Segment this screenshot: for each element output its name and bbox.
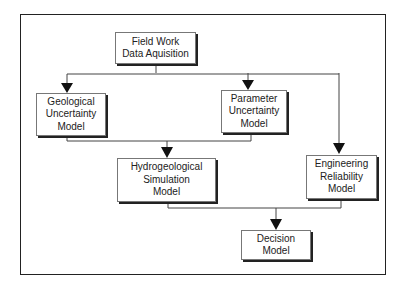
node-label-line: Data Aquisition xyxy=(122,48,189,61)
node-label-line: Model xyxy=(240,118,267,131)
node-hydrogeological: Hydrogeological Simulation Model xyxy=(117,158,216,202)
node-label-line: Model xyxy=(328,183,355,196)
node-label-line: Model xyxy=(57,121,84,134)
node-label-line: Model xyxy=(153,186,180,199)
node-decision: Decision Model xyxy=(241,230,311,260)
arrowhead-parameter xyxy=(242,80,254,90)
arrowhead-geological xyxy=(61,83,73,93)
node-label-line: Model xyxy=(262,245,289,258)
connector-field-work-split xyxy=(67,64,339,143)
node-label-line: Simulation xyxy=(143,174,190,187)
node-label-line: Geological xyxy=(47,96,94,109)
node-label-line: Parameter xyxy=(231,93,278,106)
node-label-line: Decision xyxy=(257,233,295,246)
node-engineering: Engineering Reliability Model xyxy=(306,155,377,199)
node-label-line: Hydrogeological xyxy=(131,161,203,174)
arrowhead-hydrogeological xyxy=(161,147,173,158)
node-label-line: Uncertainty xyxy=(46,108,97,121)
node-label-line: Reliability xyxy=(320,171,363,184)
arrowhead-decision xyxy=(270,219,282,230)
connector-layer xyxy=(0,0,408,293)
node-geological: Geological Uncertainty Model xyxy=(36,93,106,136)
node-label-line: Uncertainty xyxy=(229,105,280,118)
connector-decision-merge xyxy=(168,199,341,220)
node-field-work: Field Work Data Aquisition xyxy=(115,32,196,64)
arrowhead-engineering xyxy=(333,143,345,154)
node-label-line: Field Work xyxy=(132,36,180,49)
node-label-line: Engineering xyxy=(315,158,368,171)
node-parameter: Parameter Uncertainty Model xyxy=(221,90,287,133)
